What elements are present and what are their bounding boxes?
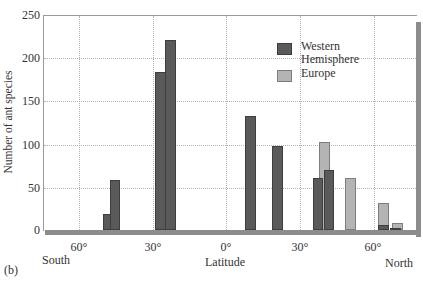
legend-swatch-dark	[277, 43, 292, 55]
bar-western-hemisphere	[272, 146, 283, 230]
frame-shadow-right	[416, 22, 421, 237]
gridline-100	[44, 145, 416, 146]
legend-label: Europe	[301, 67, 336, 80]
gridline-30s	[153, 16, 154, 230]
y-tick: 0	[0, 224, 40, 236]
x-axis-north-label: North	[385, 256, 413, 271]
gridline-150	[44, 101, 416, 102]
y-tick: 250	[0, 9, 40, 21]
legend-swatch-light	[277, 70, 292, 82]
gridline-200	[44, 58, 416, 59]
bar-western-hemisphere	[245, 116, 256, 230]
frame-shadow-bottom	[45, 230, 421, 235]
legend-label: Hemisphere	[301, 53, 359, 66]
bar-western-hemisphere	[110, 180, 120, 230]
y-axis-label: Number of ant species	[2, 62, 14, 182]
panel-label: (b)	[4, 263, 18, 278]
bar-western-hemisphere	[313, 178, 323, 230]
bar-western-hemisphere	[165, 40, 176, 230]
x-tick: 30°	[280, 240, 320, 255]
x-tick: 30°	[133, 240, 173, 255]
bar-europe	[345, 178, 356, 230]
gridline-60n	[374, 16, 375, 230]
x-axis-label: Latitude	[205, 255, 245, 270]
gridline-50	[44, 188, 416, 189]
legend-item-europe: Europe	[277, 67, 336, 82]
x-tick: 60°	[353, 240, 393, 255]
plot-area	[43, 15, 417, 231]
bar-western-hemisphere	[390, 228, 401, 230]
gridline-0	[226, 16, 227, 230]
bar-western-hemisphere	[378, 225, 389, 230]
gridline-60s	[79, 16, 80, 230]
x-axis-south-label: South	[42, 253, 70, 268]
bar-western-hemisphere	[324, 170, 334, 230]
x-tick: 0°	[206, 240, 246, 255]
y-tick: 50	[0, 182, 40, 194]
legend-item-western-hemisphere: Western Hemisphere	[277, 40, 359, 66]
